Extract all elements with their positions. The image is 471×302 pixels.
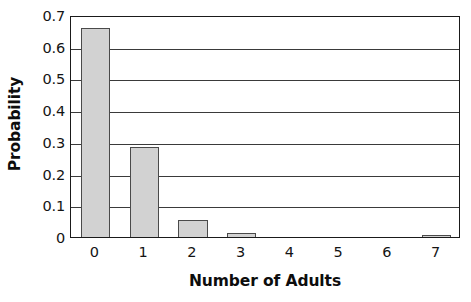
x-axis-tick-label: 0	[90, 244, 99, 260]
y-axis-tick-label: 0.6	[43, 40, 65, 56]
y-axis-title-label: Probability	[6, 77, 24, 172]
y-axis-tick-label: 0.5	[43, 71, 65, 87]
y-axis-tick-label: 0.7	[43, 8, 65, 24]
x-axis-title: Number of Adults	[70, 272, 460, 290]
probability-histogram-figure: Probability 0.70.60.50.40.30.20.10 01234…	[0, 0, 471, 302]
y-axis-tick-label: 0.1	[43, 198, 65, 214]
plot-area	[70, 16, 460, 238]
x-axis-tick-label: 5	[334, 244, 343, 260]
x-axis-tick-label: 4	[285, 244, 294, 260]
bars-layer	[71, 17, 459, 237]
x-axis-tick-label: 3	[236, 244, 245, 260]
bar-2	[178, 220, 207, 237]
y-axis-tick-label: 0	[56, 230, 65, 246]
y-axis-tick-label: 0.3	[43, 135, 65, 151]
x-axis-tick-label: 2	[187, 244, 196, 260]
y-axis-tick-label: 0.2	[43, 167, 65, 183]
bar-3	[227, 233, 256, 237]
x-axis-tick-labels: 01234567	[70, 244, 460, 272]
x-axis-tick-label: 7	[431, 244, 440, 260]
bar-0	[81, 28, 110, 237]
y-axis-tick-label: 0.4	[43, 103, 65, 119]
x-axis-tick-label: 1	[139, 244, 148, 260]
y-axis-tick-labels: 0.70.60.50.40.30.20.10	[26, 0, 68, 248]
x-axis-tick-label: 6	[382, 244, 391, 260]
bar-7	[422, 235, 451, 237]
bar-1	[130, 147, 159, 237]
